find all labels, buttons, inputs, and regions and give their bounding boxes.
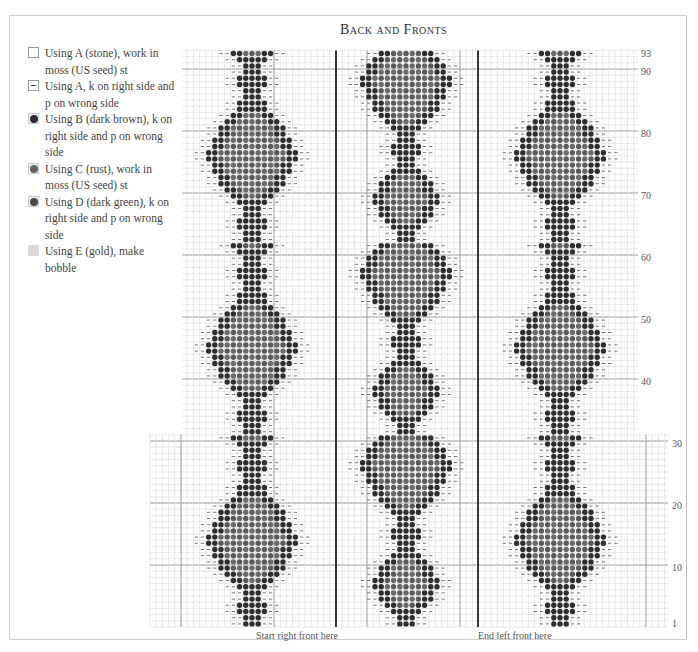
row-label-10: 10	[672, 562, 682, 573]
row-label-90: 90	[641, 66, 651, 77]
row-label-50: 50	[641, 314, 651, 325]
row-label-40: 40	[641, 376, 651, 387]
row-label-80: 80	[641, 128, 651, 139]
row-label-93: 93	[641, 48, 651, 59]
row-label-70: 70	[641, 190, 651, 201]
row-label-30: 30	[672, 438, 682, 449]
row-label-20: 20	[672, 500, 682, 511]
row-label-60: 60	[641, 252, 651, 263]
start-caption: Start right front here	[256, 630, 338, 641]
row-label-1: 1	[672, 618, 677, 629]
knitting-chart-grid	[0, 0, 698, 652]
end-caption: End left front here	[478, 630, 552, 641]
